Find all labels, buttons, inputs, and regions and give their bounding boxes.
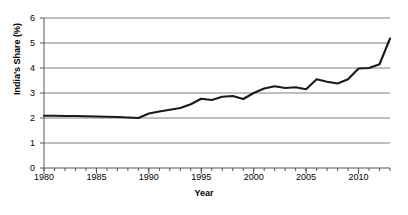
x-axis-tick-label: 2010: [339, 173, 379, 182]
chart-container: India's Share (%) Year 0123456 198019851…: [0, 0, 408, 215]
x-axis-tick-label: 2005: [286, 173, 326, 182]
x-axis-tick-label: 1990: [129, 173, 169, 182]
y-axis-tick-label: 3: [13, 89, 35, 98]
y-axis-tick-label: 2: [13, 114, 35, 123]
x-axis-tick-label: 1985: [76, 173, 116, 182]
gridlines: [44, 18, 390, 168]
chart-plot-area: [0, 0, 408, 215]
x-axis-tick-label: 2000: [234, 173, 274, 182]
x-axis-tick-label: 1995: [181, 173, 221, 182]
y-axis-tick-marks: [40, 18, 44, 168]
x-axis-title: Year: [0, 188, 408, 198]
y-axis-tick-label: 1: [13, 139, 35, 148]
y-axis-tick-label: 5: [13, 39, 35, 48]
y-axis-tick-label: 4: [13, 64, 35, 73]
y-axis-tick-label: 0: [13, 164, 35, 173]
y-axis-tick-label: 6: [13, 14, 35, 23]
data-series-line: [44, 39, 390, 119]
x-axis-tick-label: 1980: [24, 173, 64, 182]
